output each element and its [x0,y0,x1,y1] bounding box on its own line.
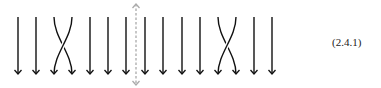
equation-number: (2.4.1) [332,36,361,48]
braid-diagram [0,0,290,88]
